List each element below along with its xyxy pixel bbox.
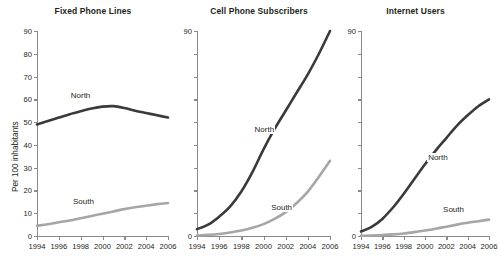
chart-panel-fixed-phone-lines: Fixed Phone Lines 0102030405060708090199… bbox=[0, 0, 176, 261]
series-annotation-north: North bbox=[254, 125, 276, 134]
plot-area: 0102030405060708090199419961998200020022… bbox=[0, 0, 176, 261]
series-annotation-north: North bbox=[70, 91, 92, 100]
series-annotation-south: South bbox=[72, 197, 95, 206]
plot-area: 0901994199619982000200220042006NorthSout… bbox=[338, 0, 499, 261]
line-series-south bbox=[37, 203, 168, 226]
series-annotation-south: South bbox=[442, 205, 465, 214]
small-multiples-figure: Per 100 inhabitants Fixed Phone Lines 01… bbox=[0, 0, 499, 261]
series-lines bbox=[338, 0, 499, 261]
chart-panel-cell-phone-subscribers: Cell Phone Subscribers 09019941996199820… bbox=[176, 0, 338, 261]
series-annotation-north: North bbox=[427, 153, 449, 162]
line-series-north bbox=[37, 106, 168, 124]
chart-panel-internet-users: Internet Users 0901994199619982000200220… bbox=[338, 0, 499, 261]
plot-area: 0901994199619982000200220042006NorthSout… bbox=[176, 0, 338, 261]
line-series-south bbox=[197, 161, 330, 236]
series-annotation-south: South bbox=[270, 203, 293, 212]
line-series-north bbox=[361, 99, 489, 231]
